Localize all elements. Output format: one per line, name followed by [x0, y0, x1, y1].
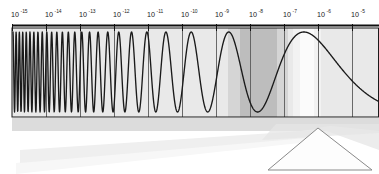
- axis-label-base: 10: [11, 10, 19, 19]
- axis-label-exponent: -14: [55, 9, 62, 14]
- axis-label-exponent: -6: [327, 9, 332, 14]
- axis-label-exponent: -9: [225, 9, 230, 14]
- axis-label-base: 10: [351, 10, 359, 19]
- axis-label-base: 10: [45, 10, 53, 19]
- axis-label-exponent: -8: [259, 9, 264, 14]
- axis-label-exponent: -7: [293, 9, 298, 14]
- bright-beam-halo-left: [293, 28, 300, 117]
- figure-canvas: 10-1510-1410-1310-1210-1110-1010-910-810…: [0, 0, 379, 174]
- bright-beam-band: [300, 28, 314, 117]
- axis-label-base: 10: [181, 10, 189, 19]
- spectrum-diagram: 10-1510-1410-1310-1210-1110-1010-910-810…: [0, 0, 379, 174]
- axis-label-base: 10: [283, 10, 291, 19]
- axis-label-base: 10: [249, 10, 257, 19]
- axis-label-base: 10: [215, 10, 223, 19]
- axis-label-exponent: -15: [21, 9, 28, 14]
- axis-label-exponent: -11: [157, 9, 164, 14]
- axis-label-exponent: -12: [123, 9, 130, 14]
- axis-label-base: 10: [317, 10, 325, 19]
- axis-label-base: 10: [113, 10, 121, 19]
- axis-label-base: 10: [79, 10, 87, 19]
- axis-label-exponent: -13: [89, 9, 96, 14]
- axis-label-base: 10: [147, 10, 155, 19]
- visible-band-shaded: [240, 28, 277, 117]
- axis-label-exponent: -5: [361, 9, 366, 14]
- axis-label-exponent: -10: [191, 9, 198, 14]
- visible-band-soft-right: [277, 28, 288, 117]
